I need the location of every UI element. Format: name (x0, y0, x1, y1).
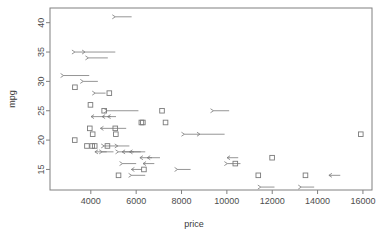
x-tick-label: 16000 (350, 196, 375, 206)
data-point (85, 144, 90, 149)
point-marker-square (160, 108, 165, 113)
x-tick-label: 8000 (172, 196, 192, 206)
data-points-layer (61, 15, 363, 189)
data-point (197, 132, 225, 136)
data-point (104, 109, 138, 113)
x-tick-label: 6000 (126, 196, 146, 206)
point-marker-square (87, 126, 92, 131)
data-point (224, 162, 240, 166)
x-tick-label: 14000 (305, 196, 330, 206)
data-point (142, 167, 147, 172)
point-marker-square (72, 138, 77, 143)
y-axis-title: mpg (7, 90, 17, 108)
scatter-plot-figure: 40006000800010000120001400016000 1520253… (0, 0, 389, 241)
arrow-head-icon (210, 109, 213, 113)
arrow-head-icon (181, 132, 184, 136)
arrow-head-icon (298, 185, 301, 189)
arrow-head-icon (258, 185, 261, 189)
data-point (163, 120, 168, 125)
y-tick-label: 25 (36, 106, 46, 116)
x-tick-label: 4000 (81, 196, 101, 206)
y-tick-label: 30 (36, 76, 46, 86)
y-axis: 152025303540 (36, 18, 50, 175)
data-point (131, 167, 141, 171)
point-marker-square (107, 91, 112, 96)
point-marker-square (114, 132, 119, 137)
x-tick-label: 10000 (214, 196, 239, 206)
x-tick-label: 12000 (260, 196, 285, 206)
data-point (116, 173, 121, 178)
data-point (175, 167, 191, 171)
data-point (92, 91, 105, 95)
data-point (73, 85, 78, 90)
arrow-head-icon (80, 79, 83, 83)
data-point (61, 74, 90, 78)
data-point (256, 173, 261, 178)
data-point (303, 173, 308, 178)
y-tick-label: 35 (36, 47, 46, 57)
arrow-head-icon (175, 167, 178, 171)
data-point (227, 156, 238, 160)
data-point (141, 120, 146, 125)
data-point (181, 132, 199, 136)
plot-border (50, 8, 372, 190)
data-point (112, 15, 131, 19)
data-point (80, 79, 98, 83)
arrow-head-icon (92, 91, 95, 95)
chart-canvas: 40006000800010000120001400016000 1520253… (0, 0, 389, 241)
point-marker-square (303, 173, 308, 178)
point-marker-square (142, 167, 147, 172)
arrow-head-icon (61, 74, 64, 78)
arrow-head-icon (129, 173, 132, 177)
arrow-head-icon (72, 50, 75, 54)
data-point (160, 108, 165, 113)
data-point (107, 91, 112, 96)
data-point (120, 162, 137, 166)
data-point (87, 126, 92, 131)
data-point (129, 173, 146, 177)
arrow-head-icon (224, 162, 227, 166)
data-point (108, 115, 116, 119)
data-point (82, 50, 115, 54)
point-marker-square (270, 155, 275, 160)
data-point (270, 155, 275, 160)
data-point (90, 132, 95, 137)
data-point (143, 162, 154, 166)
data-point (329, 173, 340, 177)
data-point (85, 56, 107, 60)
data-point (358, 132, 363, 137)
plot-frame (50, 8, 372, 190)
point-marker-square (163, 120, 168, 125)
arrow-head-icon (101, 144, 104, 148)
data-point (147, 156, 160, 160)
y-tick-label: 40 (36, 18, 46, 28)
point-marker-square (256, 173, 261, 178)
x-axis-title: price (184, 219, 204, 229)
point-marker-square (85, 144, 90, 149)
point-marker-square (358, 132, 363, 137)
point-marker-square (73, 85, 78, 90)
point-marker-square (90, 132, 95, 137)
point-marker-square (141, 120, 146, 125)
x-axis: 40006000800010000120001400016000 (81, 190, 376, 206)
data-point (72, 138, 77, 143)
data-point (129, 150, 140, 154)
arrow-head-icon (120, 162, 123, 166)
point-marker-square (139, 120, 144, 125)
arrow-head-icon (85, 56, 88, 60)
point-marker-square (88, 103, 93, 108)
y-tick-label: 20 (36, 135, 46, 145)
point-marker-square (116, 173, 121, 178)
arrow-head-icon (116, 150, 119, 154)
data-point (298, 185, 314, 189)
y-tick-label: 15 (36, 164, 46, 174)
data-point (114, 132, 119, 137)
data-point (139, 120, 144, 125)
arrow-head-icon (112, 15, 115, 19)
data-point (258, 185, 275, 189)
data-series (61, 15, 363, 189)
data-point (210, 109, 229, 113)
data-point (88, 103, 93, 108)
